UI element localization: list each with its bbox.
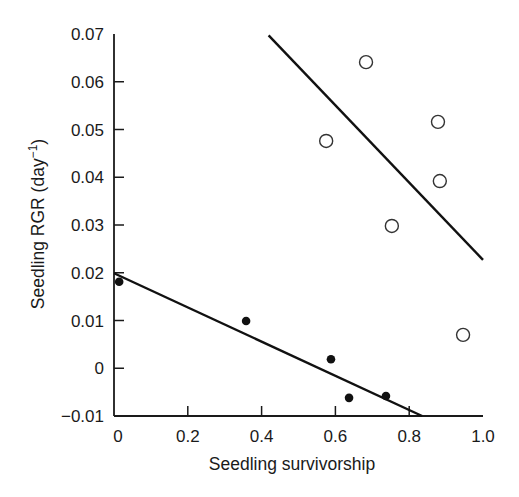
open-circle-point — [431, 115, 444, 128]
open-circle-point — [320, 134, 333, 147]
x-axis-title: Seedling survivorship — [209, 454, 375, 474]
open-circle-point — [433, 175, 446, 188]
y-tick-label: 0.01 — [71, 312, 104, 331]
y-tick-label: 0.03 — [71, 216, 104, 235]
scatter-chart: 0.070.060.050.040.030.020.010−0.0100.20.… — [0, 0, 519, 497]
axes: 0.070.060.050.040.030.020.010−0.0100.20.… — [61, 25, 495, 446]
fit-lines — [114, 35, 483, 416]
filled-circle-point — [242, 317, 251, 326]
open-circle-point — [457, 328, 470, 341]
y-axis-title-superscript: −1 — [26, 144, 40, 158]
data-points — [115, 56, 470, 402]
filled-circle-point — [382, 392, 391, 401]
filled-circle-point — [345, 394, 354, 403]
x-tick-label: 0.4 — [250, 427, 274, 446]
y-tick-label: −0.01 — [61, 407, 104, 426]
y-tick-label: 0.05 — [71, 121, 104, 140]
filled-circle-point — [115, 278, 124, 287]
y-axis-title: Seedling RGR (day−1) — [26, 139, 48, 309]
regression-line — [114, 273, 422, 416]
x-tick-label: 0.2 — [176, 427, 200, 446]
y-axis-title-main: Seedling RGR (day — [28, 158, 48, 309]
y-tick-label: 0.04 — [71, 168, 104, 187]
x-tick-label: 0 — [113, 427, 122, 446]
open-circle-point — [385, 219, 398, 232]
y-tick-label: 0.02 — [71, 264, 104, 283]
y-axis-title-close: ) — [28, 139, 48, 145]
open-circle-point — [360, 56, 373, 69]
x-tick-label: 0.8 — [397, 427, 421, 446]
x-tick-label: 1.0 — [471, 427, 495, 446]
y-tick-label: 0.07 — [71, 25, 104, 44]
y-tick-label: 0 — [95, 359, 104, 378]
filled-circle-point — [327, 355, 336, 364]
x-tick-label: 0.6 — [324, 427, 348, 446]
y-tick-label: 0.06 — [71, 73, 104, 92]
regression-line — [269, 35, 483, 259]
